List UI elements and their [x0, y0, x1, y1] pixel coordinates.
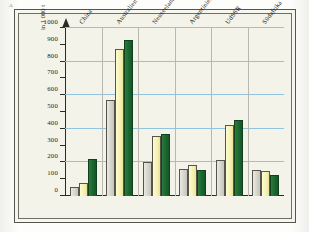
- bar: [234, 120, 243, 196]
- y-axis-tick-label: 600: [47, 85, 58, 92]
- bar: [197, 170, 206, 196]
- y-axis-tick-label: 800: [47, 51, 58, 58]
- bar: [143, 162, 152, 196]
- bar: [188, 165, 197, 196]
- category-label: Neuseeland: [151, 0, 177, 25]
- bar: [261, 171, 270, 196]
- category-label: China: [78, 7, 94, 25]
- bar-group: China: [65, 28, 102, 196]
- group-separator: [138, 28, 139, 196]
- y-axis-tick-label: 900: [47, 34, 58, 41]
- bar-group: Argentinien: [175, 28, 212, 196]
- y-axis-tick-label: 200: [47, 152, 58, 159]
- bar: [252, 170, 261, 196]
- bar-group: Südafrika: [248, 28, 285, 196]
- bar: [216, 160, 225, 196]
- plot-area: 01002003004005006007008009001000 ChinaAu…: [65, 28, 284, 196]
- bar-group: UdSSR: [211, 28, 248, 196]
- bar: [115, 49, 124, 196]
- y-axis-tick-label: 1000: [44, 18, 58, 25]
- chart-frame: in 1 000 t 01002003004005006007008009001…: [14, 9, 296, 223]
- bar: [179, 169, 188, 196]
- y-axis-tick-label: 100: [47, 169, 58, 176]
- y-axis-tick-label: 400: [47, 118, 58, 125]
- chart-frame-inner: in 1 000 t 01002003004005006007008009001…: [18, 13, 292, 219]
- y-axis-tick-label: 700: [47, 68, 58, 75]
- bar: [124, 40, 133, 196]
- bar: [161, 134, 170, 196]
- figure-marker: A: [9, 3, 13, 8]
- group-separator: [102, 28, 103, 196]
- group-separator: [175, 28, 176, 196]
- figure-page: A in 1 000 t 010020030040050060070080090…: [0, 0, 309, 232]
- bar: [270, 175, 279, 196]
- category-label: Argentinien: [187, 0, 213, 25]
- bar-group: Australien: [102, 28, 139, 196]
- bar: [106, 100, 115, 196]
- category-label: Südafrika: [260, 0, 282, 25]
- y-axis-tick-label: 0: [54, 186, 58, 193]
- group-separator: [211, 28, 212, 196]
- y-axis-tick-label: 300: [47, 135, 58, 142]
- bar: [225, 125, 234, 196]
- bar: [152, 136, 161, 196]
- group-separator: [248, 28, 249, 196]
- bar-group: Neuseeland: [138, 28, 175, 196]
- bar: [88, 159, 97, 196]
- bar: [79, 183, 88, 196]
- category-label: Australien: [114, 0, 138, 25]
- bar: [70, 187, 79, 196]
- category-label: UdSSR: [224, 4, 242, 25]
- bar-groups: ChinaAustralienNeuseelandArgentinienUdSS…: [65, 28, 284, 196]
- y-axis-tick-label: 500: [47, 102, 58, 109]
